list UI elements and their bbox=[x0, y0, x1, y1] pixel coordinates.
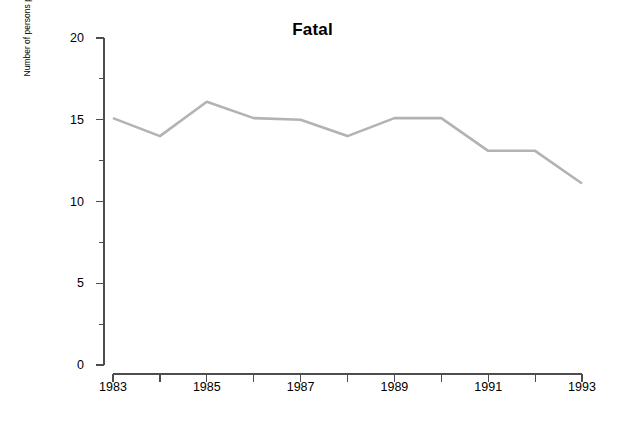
y-axis-tick-labels: 05101520 bbox=[44, 0, 84, 423]
x-axis-tick-labels: 198319851987198919911993 bbox=[0, 380, 625, 400]
y-tick-label: 15 bbox=[50, 114, 84, 126]
y-tick-label: 20 bbox=[50, 32, 84, 44]
x-tick-label: 1987 bbox=[271, 380, 331, 394]
x-tick-label: 1991 bbox=[458, 380, 518, 394]
x-tick-label: 1983 bbox=[83, 380, 143, 394]
plot-area bbox=[0, 0, 625, 423]
y-tick-label: 5 bbox=[50, 277, 84, 289]
y-tick-label: 10 bbox=[50, 196, 84, 208]
x-tick-label: 1989 bbox=[364, 380, 424, 394]
x-tick-label: 1993 bbox=[552, 380, 612, 394]
x-tick-label: 1985 bbox=[177, 380, 237, 394]
axes bbox=[104, 38, 582, 374]
axis-ticks bbox=[96, 38, 582, 382]
series-line-fatal bbox=[113, 102, 582, 184]
line-chart: Fatal Number of persons per million popu… bbox=[0, 0, 625, 423]
data-series bbox=[113, 102, 582, 184]
y-tick-label: 0 bbox=[50, 359, 84, 371]
